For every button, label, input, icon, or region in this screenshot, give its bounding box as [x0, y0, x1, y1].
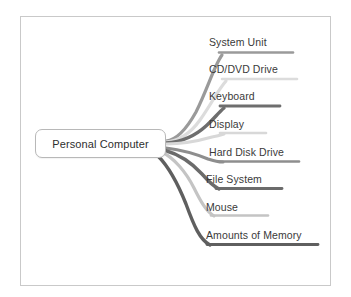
center-node-label: Personal Computer: [52, 138, 148, 150]
branch-label-hard-disk-drive[interactable]: Hard Disk Drive: [209, 146, 284, 158]
diagram-canvas: Personal Computer System Unit CD/DVD Dri…: [0, 0, 351, 297]
branch-label-display[interactable]: Display: [209, 118, 244, 130]
branch-label-file-system[interactable]: File System: [206, 173, 262, 185]
branch-label-mouse[interactable]: Mouse: [206, 201, 238, 213]
branch-label-cd-dvd-drive[interactable]: CD/DVD Drive: [209, 63, 278, 75]
center-node[interactable]: Personal Computer: [35, 129, 166, 158]
branch-label-amounts-of-memory[interactable]: Amounts of Memory: [206, 229, 302, 241]
branch-label-keyboard[interactable]: Keyboard: [209, 90, 255, 102]
branch-label-system-unit[interactable]: System Unit: [209, 36, 267, 48]
